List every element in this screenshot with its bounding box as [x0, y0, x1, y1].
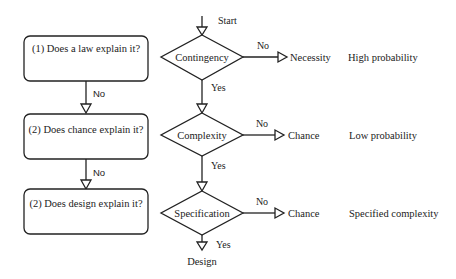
complexity-no-label: No — [256, 118, 268, 129]
outcome-necessity: Necessity — [290, 52, 332, 63]
specification-yes-label: Yes — [216, 239, 231, 250]
end-design-label: Design — [187, 256, 217, 267]
question-chance-label: (2) Does chance explain it? — [29, 124, 144, 136]
contingency-no-label: No — [257, 40, 269, 51]
question-box-law: (1) Does a law explain it? — [24, 36, 148, 81]
decision-contingency: Contingency — [161, 35, 243, 80]
probability-specified-complexity: Specified complexity — [349, 208, 439, 219]
complexity-yes-label: Yes — [211, 160, 226, 171]
specification-no-branch: No Chance Specified complexity — [243, 196, 439, 219]
outcome-chance-2: Chance — [288, 208, 320, 219]
question-box-chance: (2) Does chance explain it? — [24, 114, 148, 159]
connector-no-label: No — [93, 167, 105, 178]
question-design-label: (2) Does design explain it? — [29, 198, 142, 210]
decision-contingency-label: Contingency — [175, 52, 229, 63]
probability-low: Low probability — [349, 130, 418, 141]
explanatory-filter-diagram: (1) Does a law explain it? No (2) Does c… — [0, 0, 456, 279]
question-box-design: (2) Does design explain it? — [24, 189, 148, 234]
start-label: Start — [218, 15, 237, 26]
decision-complexity: Complexity — [161, 113, 243, 156]
connector-law-to-chance: No — [81, 81, 105, 113]
complexity-no-branch: No Chance Low probability — [243, 118, 418, 141]
contingency-no-branch: No Necessity High probability — [243, 40, 418, 63]
decision-specification: Specification — [161, 191, 243, 235]
contingency-yes-label: Yes — [211, 82, 226, 93]
start-arrow: Start — [197, 15, 237, 35]
decision-complexity-label: Complexity — [177, 130, 227, 141]
decision-specification-label: Specification — [174, 208, 230, 219]
specification-yes-branch: Yes Design — [187, 235, 231, 267]
contingency-yes-branch: Yes — [197, 80, 226, 113]
outcome-chance-1: Chance — [288, 130, 320, 141]
connector-chance-to-design: No — [81, 159, 105, 189]
specification-no-label: No — [256, 196, 268, 207]
connector-no-label: No — [93, 88, 105, 99]
complexity-yes-branch: Yes — [197, 156, 226, 191]
probability-high: High probability — [348, 52, 418, 63]
question-law-label: (1) Does a law explain it? — [32, 43, 141, 55]
